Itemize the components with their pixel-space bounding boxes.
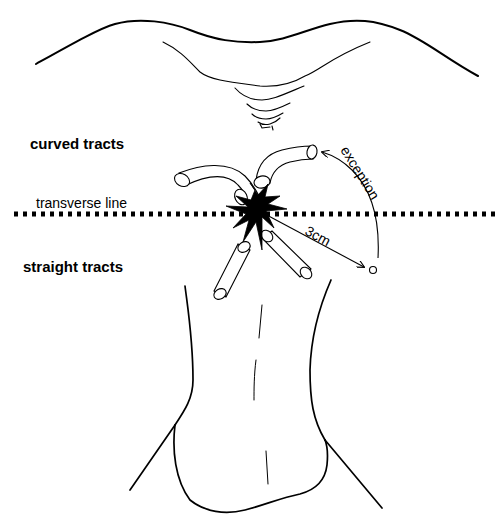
diagram-canvas: 3cm exception curved tracts transverse l…	[0, 0, 502, 525]
transverse-line-label: transverse line	[36, 196, 127, 210]
straight-tract-left	[212, 239, 252, 301]
straight-tracts-label: straight tracts	[23, 259, 123, 274]
midline-raphe	[254, 305, 268, 484]
exception-label: exception	[337, 143, 382, 202]
perineum-outline	[130, 280, 382, 512]
curved-tracts-label: curved tracts	[30, 136, 124, 151]
curved-tract-right	[253, 144, 318, 189]
external-opening-marker	[370, 267, 377, 274]
buttocks-outline	[36, 21, 478, 130]
distance-label: 3cm	[303, 223, 334, 250]
